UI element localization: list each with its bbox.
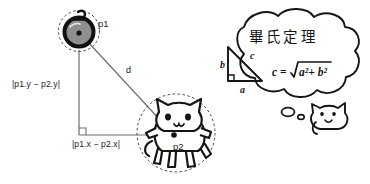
cat-head-icon xyxy=(156,99,201,131)
horizontal-leg-label: |p1.x − p2.x| xyxy=(72,140,120,149)
right-angle-icon xyxy=(79,128,86,135)
thought-bubble-icon: b c a 畢氏定理 c = a²+ b² xyxy=(220,9,359,134)
cat-right-eye-icon xyxy=(185,114,191,121)
thought-trail-group xyxy=(282,108,305,120)
formula-radicand: a²+ b² xyxy=(299,66,327,78)
point-p2-label: p2 xyxy=(173,142,184,152)
formula-lhs: c xyxy=(272,66,277,78)
cat-left-eye-icon xyxy=(165,114,171,121)
distance-label: d xyxy=(126,66,131,75)
distance-diagram: b c a 畢氏定理 c = a²+ b² xyxy=(0,0,370,184)
thinker-left-eye-icon xyxy=(320,112,324,116)
point-p1-label: p1 xyxy=(98,19,109,29)
thinker-head-outline xyxy=(311,103,347,129)
p2-anchor-dot xyxy=(171,132,177,138)
triangle-side-c-label: c xyxy=(250,50,255,61)
thought-trail-dot-1 xyxy=(282,108,295,117)
triangle-side-b-label: b xyxy=(220,59,225,70)
point-p2-group[interactable] xyxy=(137,94,215,172)
triangle-side-a-label: a xyxy=(240,84,245,95)
vertical-leg-label: |p1.y − p2.y| xyxy=(12,80,60,89)
thinker-right-eye-icon xyxy=(332,112,336,116)
thought-bubble-outline xyxy=(237,9,359,97)
cat-tail-icon xyxy=(145,141,152,156)
thought-trail-dot-2 xyxy=(298,115,304,120)
p1-anchor-dot xyxy=(76,30,81,35)
diagram-canvas: b c a 畢氏定理 c = a²+ b² xyxy=(0,0,370,184)
cat-icon[interactable] xyxy=(145,99,211,167)
thinker-cat-head-icon xyxy=(311,103,347,134)
point-p1-group[interactable] xyxy=(59,11,100,52)
bubble-heading: 畢氏定理 xyxy=(249,29,318,45)
formula-equals: = xyxy=(280,66,287,78)
